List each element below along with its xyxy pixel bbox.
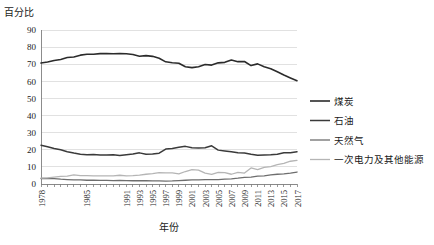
x-tick-label: 2007	[227, 190, 237, 207]
legend-label-4: 一次电力及其他能源	[334, 154, 424, 165]
y-tick-label: 80	[27, 42, 37, 52]
legend-label-1: 煤炭	[334, 96, 354, 107]
y-tick-label: 40	[27, 111, 37, 121]
line-chart-svg: 百分比0102030405060708090197819851991199319…	[0, 0, 434, 245]
x-tick-label: 1997	[161, 190, 171, 207]
x-tick-label: 1999	[174, 190, 184, 207]
series-line-1	[41, 54, 297, 81]
x-tick-label: 2011	[253, 190, 263, 207]
x-tick-label: 1985	[82, 190, 92, 207]
y-tick-label: 50	[27, 94, 37, 104]
x-tick-label: 2001	[187, 190, 197, 207]
y-tick-label: 20	[27, 145, 37, 155]
x-tick-label: 2017	[293, 190, 303, 207]
x-tick-label: 1995	[148, 190, 158, 207]
y-tick-label: 60	[27, 77, 37, 87]
x-tick-label: 1991	[122, 190, 132, 207]
x-tick-label: 2005	[214, 190, 224, 207]
x-tick-label: 1993	[135, 190, 145, 207]
chart-figure: 百分比0102030405060708090197819851991199319…	[0, 0, 434, 245]
y-tick-label: 70	[27, 59, 37, 69]
legend-label-2: 石油	[334, 115, 354, 126]
y-tick-label: 10	[27, 162, 37, 172]
series-line-2	[41, 145, 297, 155]
y-axis-title: 百分比	[4, 7, 34, 18]
x-tick-label: 2015	[279, 190, 289, 207]
x-tick-label: 2009	[240, 190, 250, 207]
x-tick-label: 1978	[37, 190, 47, 207]
y-tick-label: 0	[32, 179, 37, 189]
x-axis-title: 年份	[159, 221, 179, 233]
legend-label-3: 天然气	[334, 135, 364, 146]
y-tick-label: 30	[27, 128, 37, 138]
x-tick-label: 2003	[201, 190, 211, 207]
y-tick-label: 90	[27, 25, 37, 35]
x-tick-label: 2013	[266, 190, 276, 207]
